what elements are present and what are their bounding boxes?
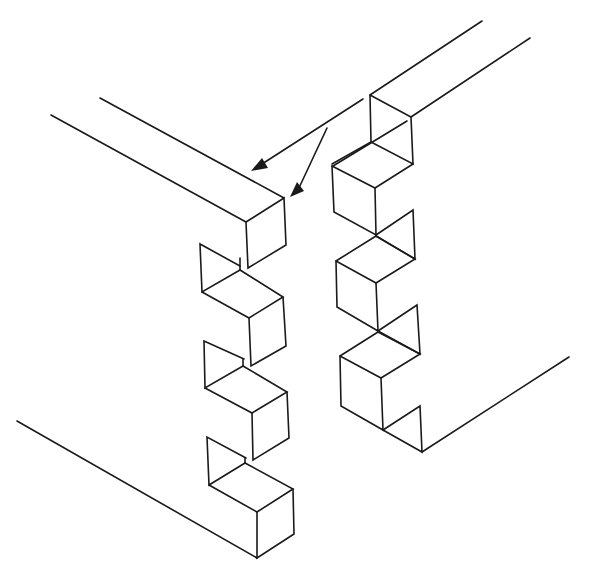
- right-board: [332, 21, 569, 452]
- right-board-top-edge: [370, 21, 482, 95]
- left-board-top-edge: [100, 98, 284, 198]
- left-notch-3: [207, 437, 246, 485]
- left-finger-1: [246, 198, 286, 268]
- assembly-arrow-lower: [290, 128, 327, 197]
- right-notch-3: [383, 406, 422, 452]
- left-notch-2: [204, 341, 244, 388]
- right-notch-2: [378, 305, 420, 354]
- arrowhead-icon: [290, 182, 304, 197]
- left-board-bottom-edge: [17, 421, 257, 558]
- right-finger-1: [332, 164, 413, 235]
- right-board-bottom-edge: [422, 357, 569, 452]
- left-board-front-edge: [51, 115, 246, 222]
- assembly-arrows: [251, 99, 363, 197]
- left-notch-1: [200, 244, 240, 292]
- right-finger-2: [336, 236, 415, 331]
- right-notch-1: [376, 210, 415, 259]
- right-board-back-edge: [411, 38, 530, 117]
- left-board: [17, 98, 294, 558]
- assembly-arrow-upper: [251, 99, 363, 171]
- box-joint-diagram: [0, 0, 589, 575]
- arrowhead-icon: [251, 158, 268, 171]
